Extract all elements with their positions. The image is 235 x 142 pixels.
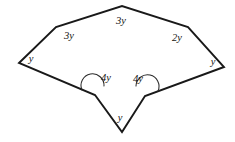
angle-label-vertex-upper-left: 3y (64, 31, 74, 42)
angle-label-vertex-notch-right: 4y (133, 74, 143, 85)
angle-label-vertex-top-apex: 3y (116, 16, 126, 27)
geometry-figure: y 3y 3y 2y y 4y y 4y (0, 0, 235, 142)
angle-label-vertex-bottom: y (118, 113, 123, 124)
angle-label-vertex-notch-left: 4y (101, 73, 111, 84)
angle-label-vertex-upper-right: 2y (172, 33, 182, 44)
angle-label-vertex-right: y (211, 57, 216, 68)
angle-label-vertex-left: y (29, 54, 34, 65)
